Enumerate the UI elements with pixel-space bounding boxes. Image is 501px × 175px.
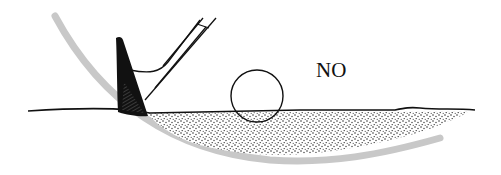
no-label: NO bbox=[316, 58, 346, 83]
club-shaft bbox=[130, 18, 216, 100]
bunker-illustration bbox=[0, 0, 501, 175]
sand bbox=[148, 111, 470, 155]
